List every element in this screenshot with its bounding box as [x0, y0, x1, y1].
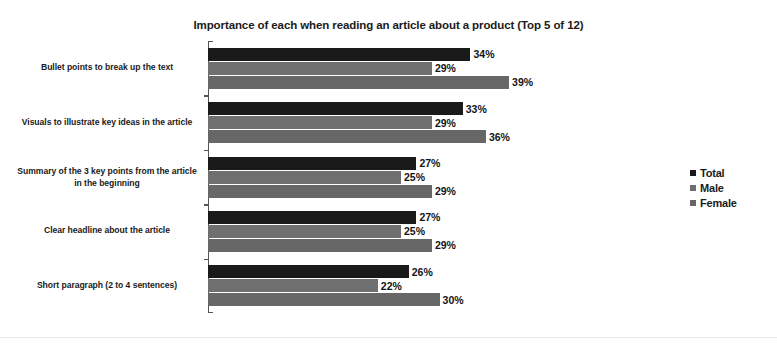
- bar-group: 27%25%29%: [208, 157, 673, 199]
- bar-total[interactable]: [208, 102, 463, 115]
- bar-value-label: 27%: [416, 211, 440, 223]
- category-label: Short paragraph (2 to 4 sentences): [14, 280, 200, 292]
- bar-female[interactable]: [208, 239, 432, 252]
- bar-male[interactable]: [208, 116, 432, 129]
- bar-value-label: 25%: [401, 171, 425, 183]
- bottom-divider: [0, 337, 777, 338]
- bar-value-label: 25%: [401, 225, 425, 237]
- bar-row: 29%: [208, 239, 673, 252]
- bar-value-label: 22%: [378, 280, 402, 292]
- page-title: Importance of each when reading an artic…: [0, 19, 777, 31]
- bar-row: 26%: [208, 265, 673, 278]
- bar-female[interactable]: [208, 76, 509, 89]
- bar-row: 29%: [208, 185, 673, 198]
- legend-item-total[interactable]: Total: [690, 165, 737, 180]
- bar-value-label: 34%: [470, 48, 494, 60]
- bar-value-label: 33%: [463, 103, 487, 115]
- bar-row: 30%: [208, 293, 673, 306]
- bar-female[interactable]: [208, 185, 432, 198]
- bar-value-label: 39%: [509, 76, 533, 88]
- bar-male[interactable]: [208, 62, 432, 75]
- legend-item-male[interactable]: Male: [690, 180, 737, 195]
- bar-female[interactable]: [208, 293, 440, 306]
- legend-label: Total: [700, 167, 724, 179]
- bar-total[interactable]: [208, 211, 416, 224]
- bar-row: 29%: [208, 62, 673, 75]
- bar-value-label: 27%: [416, 157, 440, 169]
- legend-label: Female: [700, 197, 737, 209]
- chart-page: Importance of each when reading an artic…: [0, 0, 777, 344]
- bar-group: 27%25%29%: [208, 211, 673, 253]
- bar-row: 29%: [208, 116, 673, 129]
- category-label: Bullet points to break up the text: [14, 62, 200, 74]
- axis-cap-top: [208, 41, 213, 42]
- bar-group: 34%29%39%: [208, 48, 673, 90]
- bar-value-label: 26%: [409, 266, 433, 278]
- bar-row: 25%: [208, 171, 673, 184]
- bar-group: 26%22%30%: [208, 265, 673, 307]
- bar-total[interactable]: [208, 265, 409, 278]
- bar-row: 33%: [208, 102, 673, 115]
- axis-cap-bottom: [208, 312, 213, 313]
- category-label: Clear headline about the article: [14, 226, 200, 238]
- axis-tick: [204, 95, 209, 96]
- legend-swatch-icon: [690, 200, 696, 206]
- bar-row: 39%: [208, 76, 673, 89]
- bar-row: 27%: [208, 157, 673, 170]
- legend-swatch-icon: [690, 170, 696, 176]
- bar-row: 36%: [208, 130, 673, 143]
- category-label: Summary of the 3 key points from the art…: [14, 166, 200, 189]
- plot-area: 34%29%39%33%29%36%27%25%29%27%25%29%26%2…: [208, 41, 673, 313]
- bar-male[interactable]: [208, 279, 378, 292]
- category-label: Visuals to illustrate key ideas in the a…: [14, 117, 200, 129]
- bar-male[interactable]: [208, 225, 401, 238]
- chart-legend: TotalMaleFemale: [690, 165, 737, 210]
- bar-row: 34%: [208, 48, 673, 61]
- bar-male[interactable]: [208, 171, 401, 184]
- bar-value-label: 29%: [432, 239, 456, 251]
- axis-tick: [204, 259, 209, 260]
- bar-value-label: 29%: [432, 117, 456, 129]
- legend-swatch-icon: [690, 185, 696, 191]
- axis-tick: [204, 204, 209, 205]
- bar-value-label: 36%: [486, 131, 510, 143]
- bar-row: 22%: [208, 279, 673, 292]
- bar-female[interactable]: [208, 130, 486, 143]
- bar-total[interactable]: [208, 157, 416, 170]
- bar-total[interactable]: [208, 48, 470, 61]
- bar-value-label: 29%: [432, 185, 456, 197]
- legend-item-female[interactable]: Female: [690, 195, 737, 210]
- bar-row: 27%: [208, 211, 673, 224]
- bar-value-label: 30%: [440, 294, 464, 306]
- axis-tick: [204, 150, 209, 151]
- legend-label: Male: [700, 182, 724, 194]
- bar-value-label: 29%: [432, 62, 456, 74]
- bar-row: 25%: [208, 225, 673, 238]
- bar-group: 33%29%36%: [208, 102, 673, 144]
